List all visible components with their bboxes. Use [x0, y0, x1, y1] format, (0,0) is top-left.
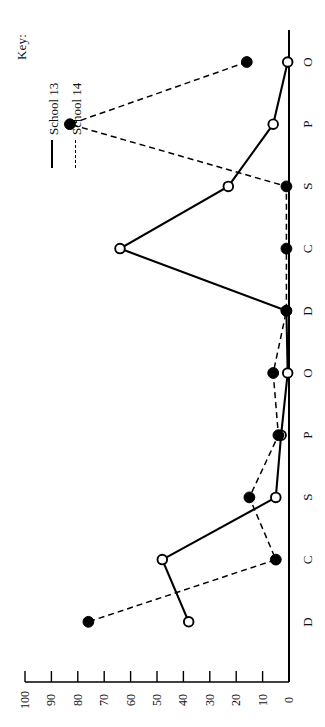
data-point-marker [281, 243, 292, 254]
category-axis-tick-label: D [302, 302, 314, 320]
data-point-marker [271, 493, 281, 503]
data-point-marker [83, 616, 94, 627]
category-axis-tick-label: D [302, 613, 314, 631]
series-layer [65, 57, 293, 628]
category-axis-tick-label: O [302, 364, 314, 382]
value-axis-tick-label: 90 [45, 686, 57, 714]
value-axis-tick-label: 80 [72, 686, 84, 714]
category-axis-tick-label: S [302, 177, 314, 195]
value-axis-tick-label: 60 [125, 686, 137, 714]
data-point-marker [268, 368, 279, 379]
data-point-marker [158, 555, 168, 565]
value-axis-tick-label: 100 [19, 686, 31, 714]
data-point-marker [273, 430, 284, 441]
category-axis-tick-label: C [302, 551, 314, 569]
category-axis-tick-label: S [302, 488, 314, 506]
data-point-marker [244, 492, 255, 503]
data-point-marker [115, 244, 125, 254]
data-point-marker [270, 554, 281, 565]
data-point-marker [184, 617, 194, 627]
data-point-marker [281, 305, 292, 316]
plot-svg [0, 0, 325, 727]
data-point-marker [283, 368, 293, 378]
category-axis-tick-label: C [302, 240, 314, 258]
value-axis-tick-label: 30 [204, 686, 216, 714]
data-point-marker [283, 57, 293, 67]
category-axis-tick-label: P [302, 426, 314, 444]
plot-area: OPSCDOPSCD 1009080706050403020100 [0, 0, 325, 727]
category-axis-tick-label: P [302, 115, 314, 133]
value-axis-ticks [25, 671, 289, 682]
data-point-marker [65, 119, 76, 130]
value-axis-tick-label: 0 [283, 686, 295, 714]
value-axis-tick-label: 40 [177, 686, 189, 714]
value-axis-tick-label: 70 [98, 686, 110, 714]
data-point-marker [268, 119, 278, 129]
data-point-marker [281, 181, 292, 192]
category-axis-tick-label: O [302, 53, 314, 71]
series-line-school-14 [70, 62, 287, 622]
value-axis-tick-label: 10 [257, 686, 269, 714]
chart-root: Key: School 13 School 14 OPSCDOPSCD 1009… [0, 0, 325, 727]
value-axis-tick-label: 50 [151, 686, 163, 714]
value-axis-tick-label: 20 [230, 686, 242, 714]
data-point-marker [241, 57, 252, 68]
data-point-marker [224, 182, 234, 192]
